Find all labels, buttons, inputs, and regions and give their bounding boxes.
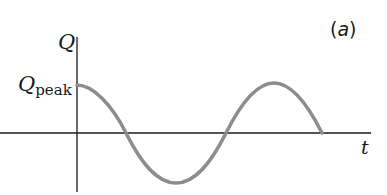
peak-label-base: Q [18,72,35,96]
panel-label: (a) [330,18,357,40]
paren-close: ) [349,18,356,40]
x-axis-label: t [361,136,369,158]
peak-label: Qpeak [18,72,72,99]
peak-label-subscript: peak [35,81,72,99]
y-axis-label: Q [58,30,75,54]
panel-letter: a [337,18,349,40]
